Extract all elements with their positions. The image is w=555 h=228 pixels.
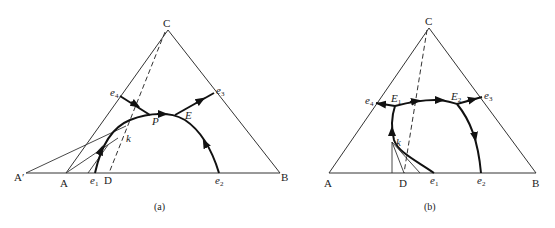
point-label-e2-b: e2 (477, 174, 486, 188)
diagram-b: C A D B e1 e2 e3 e4 E1 E2 k (b) (324, 15, 539, 213)
point-label-d: D (104, 174, 112, 186)
caption-b: (b) (424, 201, 436, 213)
arrow-icon (381, 104, 386, 105)
point-label-e4-b: e4 (365, 94, 374, 108)
arrow-icon (196, 100, 201, 103)
point-label-p: P (151, 115, 159, 127)
edge-cb-a (168, 30, 280, 173)
point-label-e: E (184, 109, 192, 121)
diagram-a: C A′ A D B e1 e2 e3 e4 P E k (a) (14, 17, 288, 213)
vertex-label-c: C (163, 17, 170, 29)
vertex-label-a: A (60, 177, 68, 189)
point-label-E1: E1 (390, 92, 402, 106)
vertex-label-b: B (281, 171, 288, 183)
arrow-icon (474, 132, 475, 137)
boundary-e-e3 (175, 93, 214, 115)
point-label-e1-b: e1 (430, 174, 439, 188)
vertex-label-b-b: B (532, 177, 539, 189)
point-label-e1: e1 (90, 174, 99, 188)
point-label-e3: e3 (216, 84, 225, 98)
vertex-label-c-b: C (425, 15, 432, 27)
vertex-label-a-prime: A′ (14, 171, 24, 183)
point-label-d-b: D (399, 177, 407, 189)
caption-a: (a) (154, 201, 165, 213)
boundary-E1-E2 (395, 100, 457, 106)
arrow-icon (410, 101, 416, 102)
boundary-E2-e2 (457, 104, 481, 173)
vertex-label-a-b: A (324, 177, 332, 189)
point-label-e3-b: e3 (484, 89, 493, 103)
point-label-e2: e2 (215, 174, 224, 188)
point-label-k: k (126, 132, 132, 144)
point-label-k-b: k (396, 136, 402, 148)
point-label-e4: e4 (110, 86, 119, 100)
point-label-E2: E2 (450, 90, 462, 104)
join-line-cd-a (109, 32, 165, 173)
phase-diagram-figure: C A′ A D B e1 e2 e3 e4 P E k (a) (0, 0, 555, 228)
